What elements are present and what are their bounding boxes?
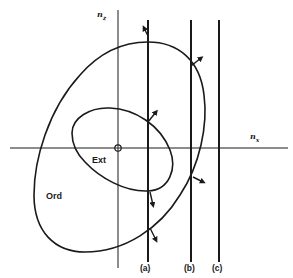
nx-label-sub: x <box>256 136 260 143</box>
line-a-label: (a) <box>140 264 150 273</box>
nx-axis-label: nx <box>250 132 259 143</box>
extraordinary-surface-curve <box>72 108 173 191</box>
nz-label-sub: z <box>103 14 106 21</box>
line-c-label: (c) <box>212 264 222 273</box>
arrow-a-outer-bottom <box>150 228 156 240</box>
arrow-a-inner-bottom <box>150 192 153 205</box>
ord-region-label: Ord <box>46 192 62 201</box>
diagram-canvas: nz nx Ext Ord (a) (b) (c) <box>0 0 293 278</box>
arrow-a-inner-top <box>148 112 156 122</box>
nz-axis-label: nz <box>97 10 106 21</box>
ext-region-label: Ext <box>92 156 106 165</box>
arrow-b-bottom <box>193 177 203 182</box>
line-b-label: (b) <box>184 264 195 273</box>
